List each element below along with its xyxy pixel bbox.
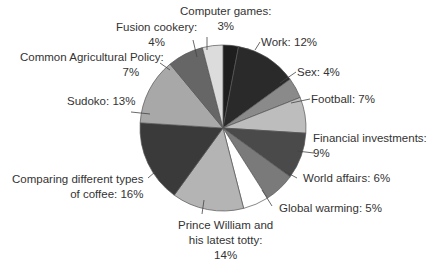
label-value: 4% bbox=[116, 35, 197, 50]
label-football: Football: 7% bbox=[311, 92, 375, 107]
label-world-affairs: World affairs: 6% bbox=[303, 171, 390, 186]
label-financial-investments: Financial investments: 9% bbox=[313, 131, 427, 161]
label-text: Common Agricultural Policy: bbox=[20, 50, 164, 65]
label-text: Comparing different types bbox=[12, 172, 143, 187]
label-text: Prince William and bbox=[178, 218, 273, 233]
pie-slices bbox=[140, 45, 306, 211]
label-prince-william: Prince William and his latest totty: 14% bbox=[178, 218, 273, 263]
label-work: Work: 12% bbox=[261, 35, 317, 50]
label-value: of coffee: 16% bbox=[12, 187, 143, 202]
label-value: 7% bbox=[20, 65, 164, 80]
label-text: Financial investments: bbox=[313, 131, 427, 146]
label-value: 14% bbox=[178, 248, 273, 263]
label-sudoko: Sudoko: 13% bbox=[67, 94, 135, 109]
label-fusion-cookery: Fusion cookery: 4% bbox=[116, 20, 197, 50]
label-cap: Common Agricultural Policy: 7% bbox=[20, 50, 164, 80]
label-text-2: his latest totty: bbox=[178, 233, 273, 248]
label-sex: Sex: 4% bbox=[297, 65, 340, 80]
label-global-warming: Global warming: 5% bbox=[279, 201, 382, 216]
label-value: 9% bbox=[313, 146, 427, 161]
label-coffee: Comparing different types of coffee: 16% bbox=[12, 172, 143, 202]
label-text: Computer games: bbox=[180, 4, 271, 19]
label-text: Fusion cookery: bbox=[116, 20, 197, 35]
